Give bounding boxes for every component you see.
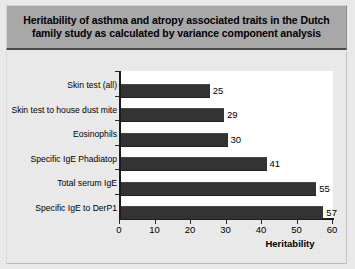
y-axis-tick bbox=[115, 120, 119, 121]
x-axis-tick-label: 10 bbox=[149, 224, 160, 235]
y-axis-tick bbox=[115, 145, 119, 146]
category-label: Eosinophils bbox=[11, 129, 117, 139]
bar bbox=[121, 157, 267, 171]
bar-value-label: 55 bbox=[319, 184, 330, 194]
bar-value-label: 30 bbox=[231, 135, 242, 145]
bar-value-label: 25 bbox=[213, 86, 224, 96]
bar bbox=[121, 108, 224, 122]
bar bbox=[121, 133, 228, 147]
x-axis-tick-label: 0 bbox=[116, 224, 121, 235]
category-label: Skin test (all) bbox=[11, 80, 117, 90]
x-axis-tick-label: 60 bbox=[327, 224, 338, 235]
chart-plot-container: Skin test (all)Skin test to house dust m… bbox=[6, 52, 347, 264]
category-label: Specific IgE to DerP1 bbox=[11, 203, 117, 213]
chart-figure: Heritability of asthma and atropy associ… bbox=[0, 0, 355, 269]
bar bbox=[121, 206, 323, 220]
category-axis-labels: Skin test (all)Skin test to house dust m… bbox=[7, 71, 117, 218]
bar-row: 41 bbox=[121, 152, 280, 177]
chart-title-banner: Heritability of asthma and atropy associ… bbox=[6, 5, 347, 50]
category-label: Specific IgE Phadiatop bbox=[11, 154, 117, 164]
bar bbox=[121, 84, 210, 98]
category-label: Total serum IgE bbox=[11, 178, 117, 188]
bar-value-label: 57 bbox=[326, 208, 337, 218]
y-axis-tick bbox=[115, 96, 119, 97]
bar bbox=[121, 182, 316, 196]
bar-row: 29 bbox=[121, 103, 238, 128]
category-label: Skin test to house dust mite bbox=[11, 105, 117, 115]
y-axis-tick bbox=[115, 71, 119, 72]
bar-row: 55 bbox=[121, 176, 330, 201]
x-axis-tick-label: 50 bbox=[291, 224, 302, 235]
bar-row: 57 bbox=[121, 201, 337, 226]
x-axis-title: Heritability bbox=[247, 238, 333, 249]
page-title: Heritability of asthma and atropy associ… bbox=[7, 14, 346, 41]
y-axis-tick bbox=[115, 169, 119, 170]
x-axis-tick-label: 20 bbox=[185, 224, 196, 235]
bar-value-label: 29 bbox=[227, 110, 238, 120]
x-axis-tick-label: 30 bbox=[220, 224, 231, 235]
x-axis-tick-label: 40 bbox=[256, 224, 267, 235]
bar-value-label: 41 bbox=[270, 159, 281, 169]
bar-row: 25 bbox=[121, 78, 223, 103]
y-axis-tick bbox=[115, 194, 119, 195]
bar-row: 30 bbox=[121, 127, 241, 152]
